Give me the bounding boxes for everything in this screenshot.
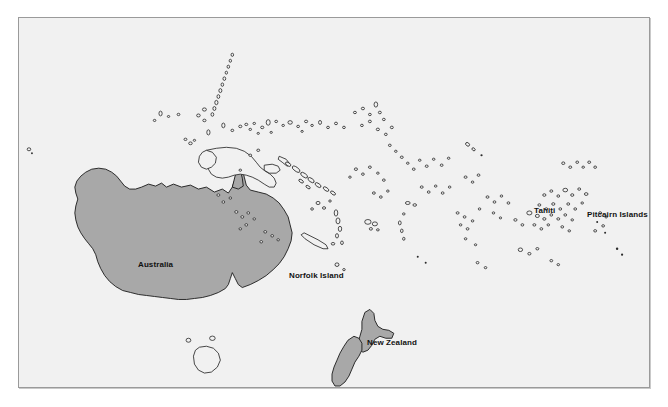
island-group-marshall-islands: [353, 102, 393, 136]
map-label-new-zealand: New Zealand: [367, 338, 417, 348]
landmass-tasmania: [193, 346, 220, 373]
islet-flinders-island: [210, 336, 216, 340]
islet-norfolk-island: [335, 263, 339, 267]
islet-loyalty: [331, 242, 335, 245]
island-group-mariana-islands: [197, 53, 234, 135]
landmass-new-britain: [264, 164, 280, 173]
island-group-line-islands: [464, 142, 483, 184]
map-label-norfolk-island: Norfolk Island: [289, 271, 344, 281]
island-group-fiji: [365, 220, 380, 231]
islet-king-island: [186, 338, 191, 342]
map-label-pitcairn-islands: Pitcairn Islands: [587, 210, 645, 220]
map-label-australia: Australia: [138, 260, 173, 270]
map-canvas: [19, 18, 649, 387]
map-label-tahiti: Tahiti: [534, 206, 555, 216]
map-root: Australia Norfolk Island New Zealand Tah…: [0, 0, 668, 407]
island-group-vanuatu: [334, 210, 343, 245]
landmass-new-caledonia: [301, 233, 328, 249]
island-group-samoa-tonga-cook: [398, 202, 476, 246]
island-group-solomon-islands: [285, 161, 336, 196]
island-group-kiribati: [388, 144, 450, 170]
map-frame: Australia Norfolk Island New Zealand Tah…: [18, 17, 650, 388]
landmass-new-zealand-south-island: [332, 336, 362, 386]
landmass-australia: [75, 163, 292, 299]
